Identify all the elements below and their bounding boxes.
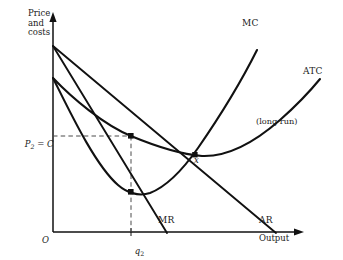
curves-group bbox=[53, 46, 320, 233]
x-point-label: x bbox=[194, 156, 199, 166]
profit-maximising-price-marker[interactable] bbox=[128, 133, 134, 139]
y-axis-arrowhead bbox=[49, 12, 56, 22]
quantity-subscript: 2 bbox=[140, 250, 144, 257]
mr-curve[interactable] bbox=[53, 46, 167, 233]
x-axis-label: Output bbox=[259, 234, 289, 244]
cost-symbol: C bbox=[47, 139, 54, 149]
origin-label: O bbox=[42, 236, 49, 246]
atc-long-run-note: (long run) bbox=[256, 117, 298, 126]
equals-sign: = bbox=[34, 139, 47, 149]
ar-curve-label: AR bbox=[259, 215, 273, 225]
quantity-tick-label: q2 bbox=[124, 237, 144, 260]
mr-equals-mc-marker[interactable] bbox=[128, 189, 134, 195]
economics-diagram: Price and costs MC ATC (long run) x MR A… bbox=[0, 0, 343, 260]
y-axis-label: Price and costs bbox=[28, 9, 50, 38]
price-equals-cost-label: P2 = C bbox=[14, 130, 54, 160]
ar-curve[interactable] bbox=[53, 46, 276, 233]
atc-curve-label: ATC bbox=[303, 66, 323, 76]
mr-curve-label: MR bbox=[158, 215, 174, 225]
x-axis-arrowhead bbox=[294, 228, 304, 235]
mc-curve-label: MC bbox=[242, 18, 259, 28]
